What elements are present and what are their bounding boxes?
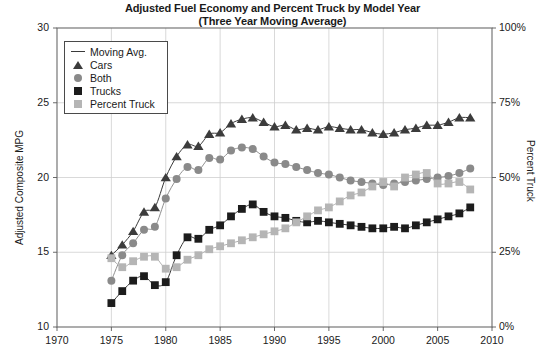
y-axis-title-left: Adjusted Composite MPG xyxy=(14,130,25,245)
data-point xyxy=(238,144,246,152)
data-point xyxy=(401,224,409,232)
data-point xyxy=(336,198,344,206)
data-point xyxy=(162,265,170,273)
legend-item-trucks: Trucks xyxy=(69,84,162,97)
data-point xyxy=(445,172,453,180)
y-axis-tick-left: 20 xyxy=(23,171,49,183)
data-point xyxy=(140,253,148,261)
legend-item-cars: Cars xyxy=(69,58,162,71)
data-point xyxy=(271,212,279,220)
data-point xyxy=(249,233,257,241)
data-point xyxy=(423,169,431,177)
y-axis-tick-right: 25% xyxy=(499,245,533,257)
data-point xyxy=(411,124,421,132)
data-point xyxy=(151,281,159,289)
data-point xyxy=(107,299,115,307)
data-point xyxy=(368,224,376,232)
square-marker-icon xyxy=(69,87,87,95)
data-point xyxy=(162,278,170,286)
line-icon xyxy=(69,51,87,53)
data-point xyxy=(292,163,300,171)
data-point xyxy=(151,253,159,261)
legend-item-percent-truck: Percent Truck xyxy=(69,97,162,110)
legend-item-label: Percent Truck xyxy=(87,98,155,110)
data-point xyxy=(336,174,344,182)
x-axis-tick: 2010 xyxy=(472,334,512,346)
legend-item-both: Both xyxy=(69,71,162,84)
data-point xyxy=(216,221,224,229)
data-point xyxy=(260,208,268,216)
data-point xyxy=(314,206,322,214)
x-axis-tick: 1985 xyxy=(200,334,240,346)
data-point xyxy=(151,223,159,231)
data-point xyxy=(314,169,322,177)
data-point xyxy=(204,130,214,138)
data-point xyxy=(184,233,192,241)
data-point xyxy=(434,180,442,188)
data-point xyxy=(118,251,126,259)
series-cars xyxy=(106,113,475,259)
data-point xyxy=(390,183,398,191)
data-point xyxy=(347,221,355,229)
data-point xyxy=(205,226,213,234)
y-axis-tick-left: 25 xyxy=(23,96,49,108)
data-point xyxy=(139,207,149,215)
y-axis-tick-right: 0% xyxy=(499,320,533,332)
marker-glyph xyxy=(73,61,83,69)
y-axis-tick-left: 30 xyxy=(23,21,49,33)
series-trucks xyxy=(107,201,474,307)
x-axis-tick: 1970 xyxy=(37,334,77,346)
data-point xyxy=(379,178,387,186)
circle-marker-icon xyxy=(69,74,87,82)
marker-glyph xyxy=(71,51,85,53)
data-point xyxy=(150,203,160,211)
data-point xyxy=(258,118,268,126)
data-point xyxy=(205,245,213,253)
data-point xyxy=(347,176,355,184)
data-point xyxy=(162,194,170,202)
y-axis-tick-right: 100% xyxy=(499,21,533,33)
marker-glyph xyxy=(74,74,82,82)
x-axis-tick: 1995 xyxy=(309,334,349,346)
data-point xyxy=(194,166,202,174)
data-point xyxy=(194,235,202,243)
data-point xyxy=(412,221,420,229)
y-axis-tick-right: 50% xyxy=(499,171,533,183)
data-point xyxy=(389,128,399,136)
data-point xyxy=(173,175,181,183)
data-point xyxy=(129,239,137,247)
data-point xyxy=(171,152,181,160)
data-point xyxy=(215,128,225,136)
data-point xyxy=(173,251,181,259)
data-point xyxy=(303,212,311,220)
x-axis-tick: 1975 xyxy=(91,334,131,346)
data-point xyxy=(390,223,398,231)
data-point xyxy=(466,165,474,173)
data-point xyxy=(325,204,333,212)
marker-glyph xyxy=(74,87,82,95)
data-point xyxy=(445,180,453,188)
series-both xyxy=(107,144,474,285)
data-point xyxy=(314,217,322,225)
legend-item-label: Both xyxy=(87,72,112,84)
data-series-layer xyxy=(106,113,475,307)
data-point xyxy=(227,147,235,155)
data-point xyxy=(216,156,224,164)
y-axis-tick-right: 75% xyxy=(499,96,533,108)
data-point xyxy=(445,212,453,220)
data-point xyxy=(194,251,202,259)
data-point xyxy=(128,227,138,235)
data-point xyxy=(336,220,344,228)
data-point xyxy=(368,183,376,191)
legend-item-label: Trucks xyxy=(87,85,121,97)
legend-item-moving-avg: Moving Avg. xyxy=(69,45,162,58)
data-point xyxy=(423,218,431,226)
data-point xyxy=(281,214,289,222)
data-point xyxy=(434,215,442,223)
data-point xyxy=(292,218,300,226)
data-point xyxy=(140,272,148,280)
data-point xyxy=(367,128,377,136)
data-point xyxy=(249,201,257,209)
x-axis-tick: 1980 xyxy=(146,334,186,346)
data-point xyxy=(325,218,333,226)
